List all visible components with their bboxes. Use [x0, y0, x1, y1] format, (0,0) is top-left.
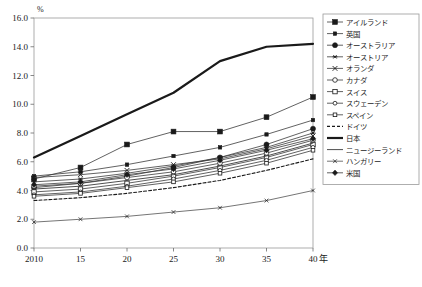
x-axis-label: 年 [319, 253, 328, 264]
marker [265, 161, 269, 165]
marker [125, 142, 130, 147]
marker [79, 192, 83, 196]
legend-label: オーストラリア [346, 41, 395, 50]
marker [333, 89, 337, 93]
legend-label: 米国 [346, 169, 360, 178]
legend-label: スウェーデン [346, 99, 388, 108]
y-tick-label: 16.0 [12, 13, 28, 23]
marker [78, 165, 83, 170]
legend-label: アイルランド [346, 18, 388, 27]
chart-svg: 0.02.04.06.08.010.012.014.016.0%20101520… [0, 0, 422, 287]
x-tick-label: 40 [309, 254, 319, 264]
marker [172, 180, 176, 184]
legend-label: ニュージーランド [346, 146, 402, 155]
x-tick-label: 20 [123, 254, 133, 264]
x-tick-label: 15 [76, 254, 86, 264]
marker [333, 113, 337, 117]
y-tick-label: 6.0 [17, 157, 29, 167]
marker [333, 78, 338, 83]
legend-label: スペイン [346, 111, 373, 120]
marker [218, 129, 223, 134]
marker [171, 129, 176, 134]
marker [125, 163, 128, 166]
marker [311, 126, 316, 131]
x-tick-label: 25 [169, 254, 179, 264]
y-tick-label: 4.0 [17, 186, 29, 196]
legend-label: オランダ [346, 64, 375, 73]
legend-label: ドイツ [346, 122, 367, 131]
x-tick-label: 2010 [25, 254, 44, 264]
marker [32, 194, 36, 198]
marker [311, 95, 316, 100]
marker [218, 146, 221, 149]
legend-label: スイス [346, 88, 367, 97]
y-tick-label: 14.0 [12, 42, 28, 52]
legend-label: オーストリア [346, 53, 388, 62]
marker [264, 115, 269, 120]
marker [333, 32, 336, 35]
marker [265, 133, 268, 136]
x-tick-label: 30 [216, 254, 226, 264]
marker [333, 101, 337, 105]
marker [218, 171, 222, 175]
marker [333, 43, 338, 48]
y-tick-label: 0.0 [17, 243, 29, 253]
y-tick-label: 8.0 [17, 128, 29, 138]
chart-container: 0.02.04.06.08.010.012.014.016.0%20101520… [0, 0, 422, 287]
marker [311, 118, 314, 121]
marker [333, 20, 338, 25]
legend-label: ハンガリー [346, 157, 381, 166]
legend-label: 日本 [346, 134, 361, 143]
y-tick-label: 10.0 [12, 99, 28, 109]
legend-label: 英国 [346, 30, 360, 39]
marker [311, 148, 315, 152]
legend-label: カナダ [346, 76, 368, 85]
y-tick-label: 12.0 [12, 71, 28, 81]
marker [125, 186, 129, 190]
x-tick-label: 35 [262, 254, 272, 264]
legend: アイルランド英国オーストラリアオーストリアオランダカナダスイススウェーデンスペイ… [323, 14, 419, 184]
marker [172, 154, 175, 157]
y-axis-unit: % [37, 5, 44, 14]
y-tick-label: 2.0 [17, 214, 29, 224]
